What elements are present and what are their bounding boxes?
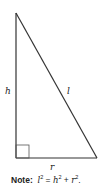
- note-formula: Note: l2 = h2 + r2.: [11, 175, 104, 185]
- base-label: r: [50, 162, 55, 172]
- height-label: h: [5, 86, 11, 96]
- note-prefix: Note:: [11, 175, 33, 185]
- hypotenuse-side: [16, 13, 97, 158]
- hypotenuse-label: l: [67, 86, 70, 96]
- right-triangle-diagram: h l r: [0, 0, 104, 189]
- right-angle-marker: [16, 145, 29, 158]
